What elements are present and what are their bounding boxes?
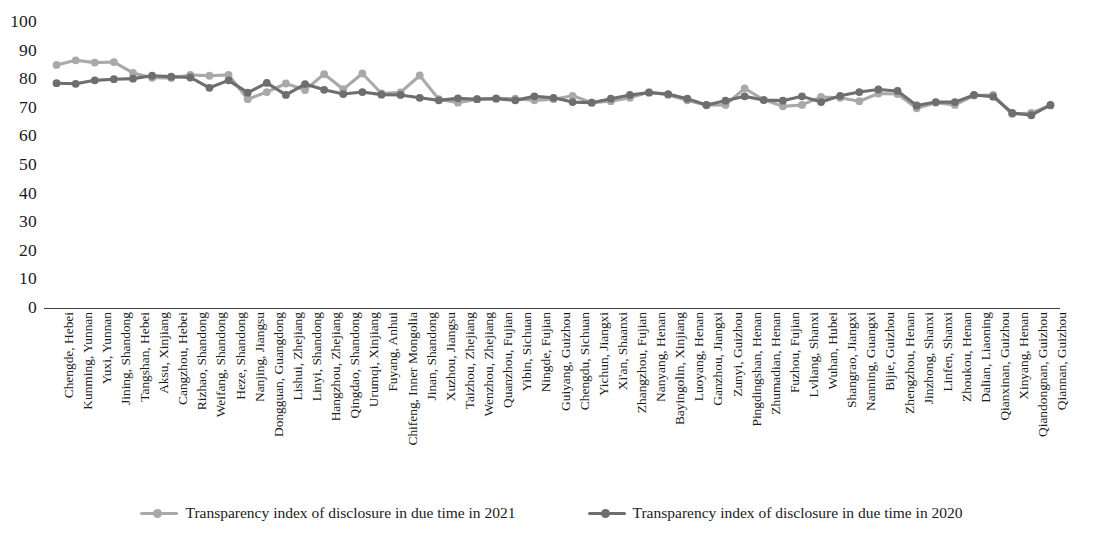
x-axis-tick-label: Qingdao, Shandong bbox=[348, 312, 361, 418]
legend-swatch-2021 bbox=[140, 507, 178, 519]
data-point bbox=[645, 89, 653, 97]
x-axis-tick-label: Shangrao, Jiangxi bbox=[845, 312, 858, 408]
data-point bbox=[110, 75, 118, 83]
data-point bbox=[282, 80, 290, 88]
data-point bbox=[798, 92, 806, 100]
x-axis-tick-label: Quanzhou, Fujian bbox=[501, 312, 514, 408]
y-axis-tick-label: 10 bbox=[19, 271, 37, 289]
chart-legend: Transparency index of disclosure in due … bbox=[0, 500, 1103, 526]
data-point bbox=[263, 88, 271, 96]
x-axis-tick-label: Cangzhou, Hebei bbox=[176, 312, 189, 405]
y-axis-tick-label: 40 bbox=[19, 185, 37, 203]
data-point bbox=[320, 70, 328, 78]
data-point bbox=[72, 80, 80, 88]
data-point bbox=[932, 98, 940, 106]
data-point bbox=[741, 84, 749, 92]
x-axis-tick-label: Zhengzhou, Henan bbox=[903, 312, 916, 414]
data-point bbox=[110, 58, 118, 66]
data-point bbox=[358, 70, 366, 78]
y-axis-tick-label: 90 bbox=[19, 42, 37, 60]
data-point bbox=[320, 86, 328, 94]
y-axis-tick-label: 60 bbox=[19, 128, 37, 146]
data-point bbox=[416, 72, 424, 80]
x-axis-tick-label: Zhumadian, Henan bbox=[769, 312, 782, 415]
data-point bbox=[263, 79, 271, 87]
x-axis-tick-label: Nanyang, Henan bbox=[654, 312, 667, 402]
data-point bbox=[760, 96, 768, 104]
data-point bbox=[894, 87, 902, 95]
data-point bbox=[358, 88, 366, 96]
x-axis-tick-label: Guiyang, Guizhou bbox=[559, 312, 572, 411]
data-point bbox=[301, 80, 309, 88]
legend-item-2021[interactable]: Transparency index of disclosure in due … bbox=[140, 505, 515, 521]
data-point bbox=[1008, 109, 1016, 117]
data-point bbox=[989, 93, 997, 101]
y-axis-tick-label: 50 bbox=[19, 156, 37, 174]
x-axis-tick-label: Xi'an, Shaanxi bbox=[616, 312, 629, 390]
x-axis-tick-label: Yichun, Jiangxi bbox=[597, 312, 610, 396]
x-axis-tick-label: Chengdu, Sichuan bbox=[578, 312, 591, 410]
series-2021 bbox=[53, 56, 1055, 118]
x-axis: Chengde, HebeiKunming, YunnanYuxi, Yunna… bbox=[47, 312, 1060, 492]
x-axis-tick-label: Yibin, Sichuan bbox=[520, 312, 533, 392]
data-point bbox=[530, 92, 538, 100]
data-point bbox=[186, 74, 194, 82]
data-point bbox=[129, 75, 137, 83]
data-point bbox=[91, 59, 99, 67]
legend-item-2020[interactable]: Transparency index of disclosure in due … bbox=[588, 505, 963, 521]
y-axis-tick-label: 100 bbox=[10, 13, 37, 31]
data-point bbox=[167, 73, 175, 81]
data-point bbox=[703, 101, 711, 109]
data-point bbox=[550, 94, 558, 102]
x-axis-tick-label: Lishui, Zhejiang bbox=[291, 312, 304, 401]
x-axis-tick-label: Linfen, Shanxi bbox=[941, 312, 954, 392]
data-point bbox=[607, 95, 615, 103]
x-axis-tick-label: Dongguan, Guangdong bbox=[272, 312, 285, 437]
data-point bbox=[664, 90, 672, 98]
x-axis-tick-label: Ningde, Fujian bbox=[539, 312, 552, 392]
x-axis-tick-label: Dalian, Liaoning bbox=[979, 312, 992, 403]
x-axis-tick-label: Jinzhong, Shanxi bbox=[922, 312, 935, 404]
data-point bbox=[683, 95, 691, 103]
data-point bbox=[779, 97, 787, 105]
legend-label-2020: Transparency index of disclosure in due … bbox=[633, 505, 963, 521]
x-axis-tick-label: Urumqi, Xinjiang bbox=[367, 312, 380, 407]
data-point bbox=[339, 90, 347, 98]
data-point bbox=[378, 91, 386, 99]
x-axis-tick-label: Wuhan, Hubei bbox=[826, 312, 839, 390]
data-point bbox=[53, 79, 61, 87]
x-axis-tick-label: Bijie, Guizhou bbox=[883, 312, 896, 391]
x-axis-tick-label: Fuzhou, Fujian bbox=[788, 312, 801, 393]
x-axis-tick-label: Ganzhou, Jiangxi bbox=[711, 312, 724, 406]
data-point bbox=[626, 91, 634, 99]
data-point bbox=[416, 94, 424, 102]
data-point bbox=[798, 101, 806, 109]
y-axis-tick-label: 80 bbox=[19, 70, 37, 88]
x-axis-tick-label: Qiandongnan, Guizhou bbox=[1036, 312, 1049, 437]
data-point bbox=[282, 91, 290, 99]
y-axis-tick-label: 20 bbox=[19, 242, 37, 260]
x-axis-tick-label: Qiannan, Guizhou bbox=[1055, 312, 1068, 410]
x-axis-tick-label: Heze, Shandong bbox=[234, 312, 247, 400]
plot-area bbox=[47, 22, 1060, 308]
data-point bbox=[741, 92, 749, 100]
data-point bbox=[206, 84, 214, 92]
y-axis-tick-label: 0 bbox=[28, 299, 37, 317]
x-axis-tick-label: Nanning, Guangxi bbox=[864, 312, 877, 411]
x-axis-tick-label: Zunyi, Guizhou bbox=[731, 312, 744, 397]
x-axis-tick-label: Xinyang, Henan bbox=[1017, 312, 1030, 400]
data-point bbox=[951, 98, 959, 106]
y-axis-tick-label: 30 bbox=[19, 213, 37, 231]
x-axis-tick-label: Jinan, Shandong bbox=[425, 312, 438, 401]
data-point bbox=[244, 89, 252, 97]
x-axis-tick-label: Chengde, Hebei bbox=[62, 312, 75, 398]
data-point bbox=[492, 95, 500, 103]
legend-swatch-2020 bbox=[588, 507, 626, 519]
x-axis-tick-label: Yuxi, Yunnan bbox=[100, 312, 113, 384]
data-point bbox=[511, 96, 519, 104]
data-point bbox=[206, 72, 214, 80]
x-axis-tick-label: Nanjing, Jiangsu bbox=[253, 312, 266, 402]
x-axis-tick-label: Jining, Shandong bbox=[119, 312, 132, 405]
x-axis-tick-label: Luoyang, Henan bbox=[692, 312, 705, 401]
x-axis-tick-label: Hangzhou, Zhejiang bbox=[329, 312, 342, 421]
